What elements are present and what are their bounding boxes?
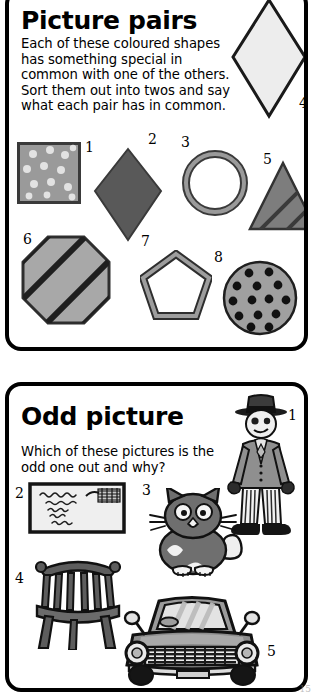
instructions-odd-picture: Which of these pictures is the odd one o… <box>21 444 231 475</box>
shape-number-8: 8 <box>214 250 223 264</box>
shape-spotted-circle <box>221 259 299 337</box>
picture-number-1: 1 <box>288 408 297 422</box>
shape-solid-diamond <box>93 147 163 242</box>
figure-car <box>111 591 273 691</box>
page-title-odd-picture: Odd picture <box>21 402 184 431</box>
panel-odd-picture: Odd picture Which of these pictures is t… <box>5 382 308 692</box>
picture-number-2: 2 <box>15 486 24 500</box>
picture-number-3: 3 <box>142 483 151 497</box>
panel-picture-pairs: Picture pairs Each of these coloured sha… <box>5 0 308 351</box>
page-title-picture-pairs: Picture pairs <box>21 6 197 35</box>
shape-number-3: 3 <box>181 135 190 149</box>
figure-letter-envelope <box>28 482 126 534</box>
figure-cat <box>149 488 247 580</box>
shape-number-5: 5 <box>263 152 272 166</box>
shape-number-2: 2 <box>148 132 157 146</box>
shape-number-4: 4 <box>299 96 308 110</box>
shape-number-6: 6 <box>23 232 32 246</box>
instructions-picture-pairs: Each of these coloured shapes has someth… <box>21 36 231 114</box>
worksheet-page: Picture pairs Each of these coloured sha… <box>0 0 313 699</box>
shape-outline-diamond <box>227 0 308 122</box>
shape-ring-circle <box>182 150 248 216</box>
picture-number-5: 5 <box>267 644 276 658</box>
page-corner-note: 15 <box>285 684 311 698</box>
shape-striped-octagon <box>21 235 111 325</box>
shape-number-7: 7 <box>141 234 150 248</box>
picture-number-4: 4 <box>15 571 24 585</box>
shape-striped-triangle <box>247 160 308 232</box>
shape-pentagon-outline <box>140 250 212 320</box>
shape-spotted-square <box>17 142 81 204</box>
